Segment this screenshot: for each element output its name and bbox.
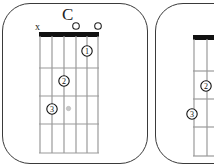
svg-text:2: 2 (204, 82, 208, 91)
finger-3: 3 (187, 109, 197, 119)
finger-2: 2 (201, 81, 211, 91)
nut (39, 32, 99, 37)
svg-text:2: 2 (62, 77, 66, 86)
gray-dot-icon (66, 106, 70, 110)
svg-text:3: 3 (50, 105, 54, 114)
chord-diagram-c: C x 1 2 (35, 5, 101, 153)
svg-text:1: 1 (85, 47, 89, 56)
chord-name: C (62, 5, 73, 24)
open-string-icon (95, 23, 102, 30)
finger-3: 3 (47, 104, 57, 114)
chord-diagram-2: 2 3 (187, 35, 214, 156)
nut (193, 35, 214, 40)
finger-1: 1 (82, 46, 92, 56)
open-string-icon (73, 23, 80, 30)
finger-2: 2 (59, 76, 69, 86)
chord-diagrams: C x 1 2 (0, 0, 214, 166)
strings (194, 39, 207, 156)
muted-string-marker: x (35, 21, 40, 32)
svg-text:3: 3 (190, 110, 194, 119)
